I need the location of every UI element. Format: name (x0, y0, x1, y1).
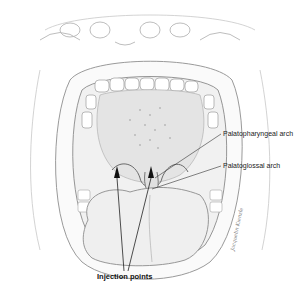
mouth-drawing (0, 0, 300, 291)
anatomy-illustration: Palatopharyngeal arch Palatoglossal arch… (0, 0, 300, 291)
label-palatoglossal-arch: Palatoglossal arch (223, 162, 280, 169)
label-injection-points: Injection points (97, 273, 152, 281)
nose-eyes (40, 22, 240, 45)
label-palatopharyngeal-arch: Palatopharyngeal arch (223, 130, 293, 137)
